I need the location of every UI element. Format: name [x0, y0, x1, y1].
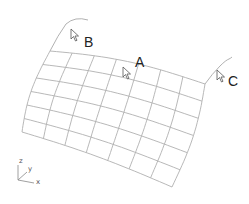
mesh-row-line [27, 105, 187, 153]
surface-diagram [0, 0, 249, 204]
mesh-column-line [22, 51, 50, 132]
mesh-row-line [24, 119, 180, 170]
mesh-row-line [31, 92, 194, 136]
axis-label-y: y [28, 166, 32, 173]
cursor-icon-c [217, 70, 225, 82]
label-c: C [228, 74, 238, 88]
surface-mesh [22, 51, 205, 187]
mesh-column-line [172, 84, 205, 187]
label-b: B [84, 35, 93, 49]
label-a: A [135, 55, 144, 69]
y-axis-line [18, 172, 27, 180]
cursor-icon-b [71, 29, 79, 41]
mesh-column-line [129, 70, 161, 169]
cursor-icon-a [123, 67, 131, 79]
mesh-row-line [22, 132, 172, 187]
axis-label-z: z [19, 158, 23, 165]
axis-label-x: x [36, 179, 40, 186]
x-axis-line [18, 180, 34, 183]
curve-b [50, 19, 88, 51]
